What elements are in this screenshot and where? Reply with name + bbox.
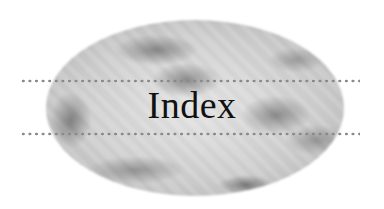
page-title: Index: [0, 83, 384, 127]
dotted-divider-bottom: [20, 132, 360, 136]
index-banner: Index: [0, 0, 384, 209]
